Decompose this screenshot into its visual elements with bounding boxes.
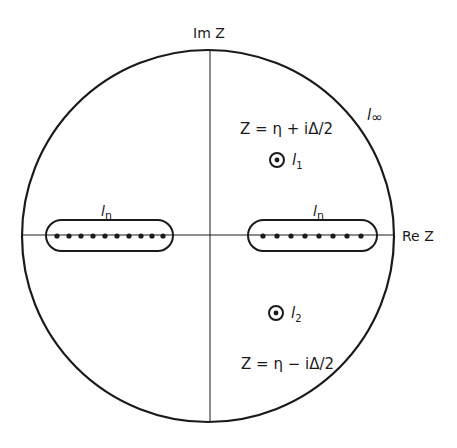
contour-diagram: Im Z Re Z l∞ lη lη l1 l2 Z = η + iΔ/2 Z … (0, 0, 457, 448)
real-axis-label: Re Z (402, 228, 434, 244)
upper-pole-label: l1 (292, 151, 303, 171)
infinity-contour-label: l∞ (367, 106, 383, 125)
upper-pole-point (275, 158, 280, 163)
lower-pole-equation: Z = η − iΔ/2 (241, 355, 334, 373)
lower-pole-label: l2 (291, 304, 302, 324)
imaginary-axis-label: Im Z (193, 25, 225, 41)
contour-infinity (22, 50, 394, 422)
right-cut-dots (260, 233, 363, 238)
left-cut-dots (54, 233, 165, 238)
upper-pole-equation: Z = η + iΔ/2 (240, 120, 333, 138)
lower-pole-point (274, 311, 279, 316)
